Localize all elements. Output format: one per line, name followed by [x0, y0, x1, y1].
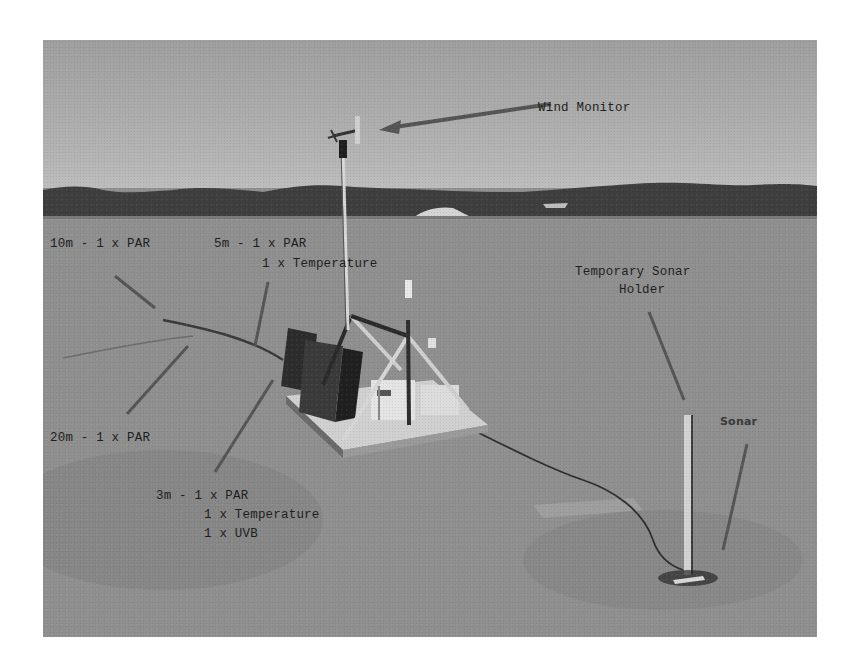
label-5m-sensor-line2: 1 x Temperature [262, 256, 378, 272]
station-photo [43, 40, 817, 637]
label-3m-sensor-line3: 1 x UVB [204, 526, 258, 542]
label-5m-sensor-line1: 5m - 1 x PAR [214, 236, 306, 252]
label-10m-sensor: 10m - 1 x PAR [50, 236, 150, 252]
pointer-20m [127, 346, 188, 414]
label-sonar: Sonar [720, 414, 757, 430]
wind-monitor [328, 116, 360, 158]
wind-arrow [388, 104, 551, 128]
label-20m-sensor: 20m - 1 x PAR [50, 430, 150, 446]
pointer-3m [215, 380, 273, 472]
pointer-5m [255, 282, 268, 346]
label-3m-sensor-line1: 3m - 1 x PAR [156, 488, 248, 504]
pointer-sonar-holder [649, 312, 684, 400]
scene-drawing [43, 40, 817, 637]
label-wind-monitor: Wind Monitor [538, 100, 630, 116]
pointer-10m [115, 276, 155, 308]
label-sonar-holder-line2: Holder [619, 282, 665, 298]
label-sonar-holder-line1: Temporary Sonar [575, 264, 691, 280]
label-3m-sensor-line2: 1 x Temperature [204, 507, 320, 523]
